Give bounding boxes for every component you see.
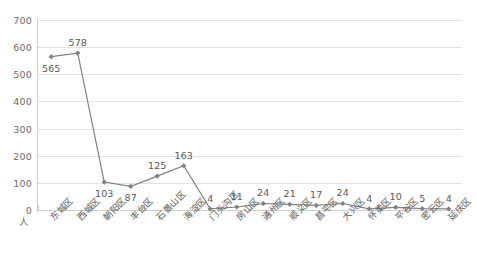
y-tick-label: 100	[13, 177, 32, 188]
gridline	[38, 101, 462, 102]
gridline	[38, 20, 462, 21]
data-value-label: 17	[310, 189, 323, 200]
data-value-label: 11	[231, 191, 244, 202]
data-value-label: 24	[337, 187, 350, 198]
gridline	[38, 74, 462, 75]
data-value-label: 24	[257, 187, 270, 198]
y-tick-label: 400	[13, 96, 32, 107]
plot-area	[38, 20, 462, 210]
y-axis-unit-label: 人	[19, 214, 29, 228]
data-value-label: 125	[148, 160, 167, 171]
gridline	[38, 156, 462, 157]
data-value-label: 10	[390, 191, 403, 202]
data-value-label: 21	[284, 188, 297, 199]
gridline	[38, 129, 462, 130]
gridline	[38, 183, 462, 184]
data-value-label: 103	[95, 188, 114, 199]
data-value-label: 4	[366, 193, 372, 204]
gridline	[38, 47, 462, 48]
data-value-label: 4	[446, 193, 452, 204]
y-tick-label: 600	[13, 42, 32, 53]
data-value-label: 87	[125, 192, 138, 203]
line-chart: 0100200300400500600700 人 东城区西城区朝阳区丰台区石景山…	[0, 0, 477, 273]
data-value-label: 163	[174, 150, 193, 161]
data-value-label: 5	[419, 193, 425, 204]
y-tick-label: 500	[13, 69, 32, 80]
data-value-label: 578	[68, 37, 87, 48]
y-tick-label: 300	[13, 123, 32, 134]
data-value-label: 565	[42, 63, 61, 74]
x-tick	[38, 205, 39, 211]
y-tick-label: 700	[13, 15, 32, 26]
data-value-label: 4	[207, 193, 213, 204]
y-tick-label: 200	[13, 150, 32, 161]
y-axis: 0100200300400500600700	[0, 0, 38, 216]
